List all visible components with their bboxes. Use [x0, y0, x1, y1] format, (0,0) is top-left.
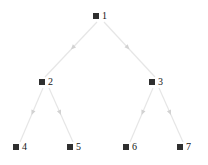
edge-arrow-icon [167, 110, 173, 116]
tree-node-6[interactable]: 6 [123, 142, 137, 152]
node-square-icon [177, 144, 183, 150]
tree-edge [130, 88, 153, 142]
node-square-icon [123, 144, 129, 150]
node-square-icon [13, 144, 19, 150]
edge-layer [0, 0, 208, 165]
tree-edge [159, 88, 183, 142]
node-square-icon [93, 13, 99, 19]
binary-tree-diagram: 1234567 [0, 0, 208, 165]
node-label: 1 [102, 11, 107, 21]
tree-edge [49, 88, 73, 142]
edge-arrow-icon [29, 110, 35, 116]
tree-node-7[interactable]: 7 [177, 142, 191, 152]
tree-edge [20, 88, 43, 142]
node-label: 4 [22, 142, 27, 152]
node-label: 6 [132, 142, 137, 152]
edge-arrow-icon [57, 110, 63, 116]
node-square-icon [149, 79, 155, 85]
tree-node-4[interactable]: 4 [13, 142, 27, 152]
edge-arrow-icon [139, 110, 145, 116]
edge-line [104, 22, 155, 77]
node-square-icon [39, 79, 45, 85]
tree-node-5[interactable]: 5 [67, 142, 81, 152]
tree-node-2[interactable]: 2 [39, 77, 53, 87]
tree-node-1[interactable]: 1 [93, 11, 107, 21]
tree-edge [104, 22, 155, 77]
tree-node-3[interactable]: 3 [149, 77, 163, 87]
tree-edge [45, 22, 97, 77]
node-label: 5 [76, 142, 81, 152]
node-label: 3 [158, 77, 163, 87]
node-label: 7 [186, 142, 191, 152]
node-label: 2 [48, 77, 53, 87]
node-square-icon [67, 144, 73, 150]
